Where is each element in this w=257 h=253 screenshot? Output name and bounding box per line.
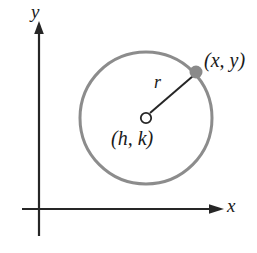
- x-axis-label: x: [227, 196, 235, 215]
- circle-diagram-figure: y x (x, y) (h, k) r: [0, 0, 257, 253]
- center-coordinates-label: (h, k): [111, 128, 153, 148]
- point-coordinates-label: (x, y): [204, 50, 245, 70]
- y-axis-arrow-icon: [34, 21, 44, 34]
- point-on-circle-marker: [190, 66, 203, 79]
- x-axis-arrow-icon: [209, 204, 224, 214]
- center-marker: [141, 113, 151, 123]
- radius-label: r: [154, 73, 161, 91]
- y-axis-label: y: [31, 2, 39, 21]
